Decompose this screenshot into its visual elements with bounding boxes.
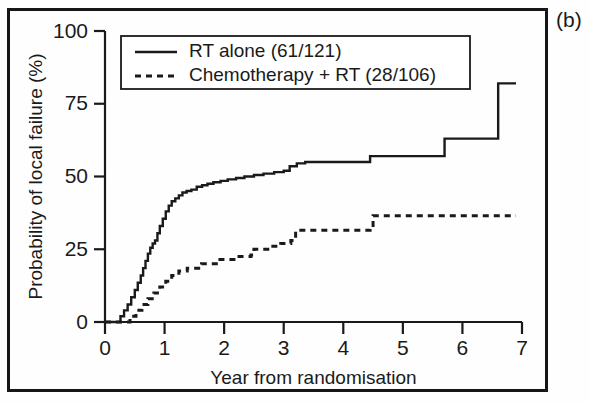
x-tick-label: 2	[218, 336, 230, 359]
x-tick-label: 3	[278, 336, 290, 359]
series-curve-0	[105, 83, 516, 322]
x-tick-label: 1	[159, 336, 171, 359]
y-tick-label: 75	[65, 91, 88, 114]
x-tick-label: 6	[457, 336, 469, 359]
y-tick-label: 25	[65, 237, 88, 260]
legend-label-0: RT alone (61/121)	[189, 40, 341, 61]
y-axis-title: Probability of local failure (%)	[25, 53, 46, 299]
x-tick-label: 4	[337, 336, 349, 359]
x-tick-label: 7	[516, 336, 528, 359]
x-tick-label: 0	[99, 336, 111, 359]
series-curve-1	[105, 216, 516, 322]
y-tick-label: 100	[53, 19, 88, 42]
x-tick-label: 5	[397, 336, 409, 359]
series-layer	[105, 83, 516, 322]
figure-container: (b) 025507510001234567Year from randomis…	[0, 0, 589, 403]
y-tick-label: 50	[65, 164, 88, 187]
y-tick-label: 0	[76, 310, 88, 333]
x-axis-title: Year from randomisation	[210, 367, 416, 388]
legend-label-1: Chemotherapy + RT (28/106)	[189, 64, 436, 85]
chart-plot: 025507510001234567Year from randomisatio…	[0, 0, 589, 403]
legend-layer: RT alone (61/121)Chemotherapy + RT (28/1…	[121, 36, 470, 89]
